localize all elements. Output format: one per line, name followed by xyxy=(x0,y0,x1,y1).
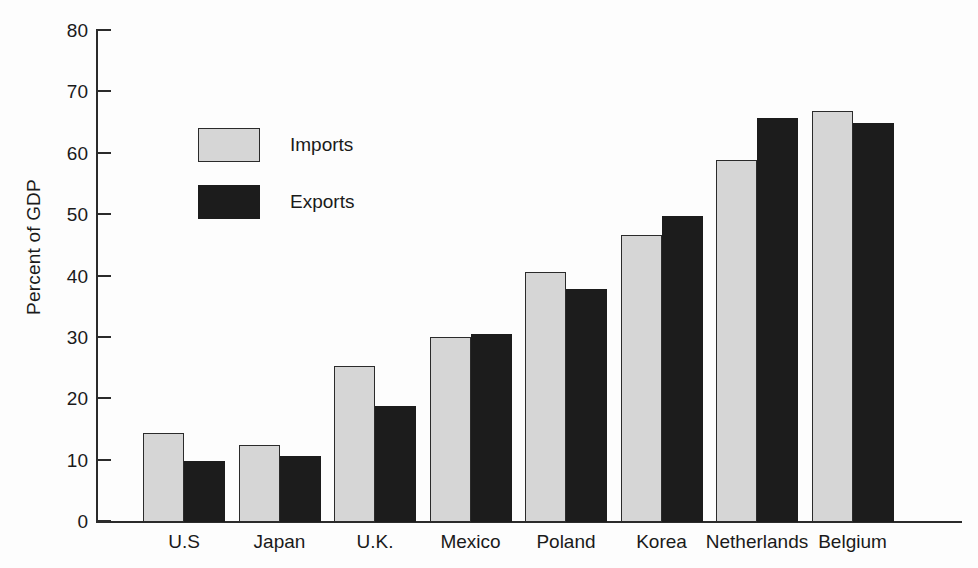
y-axis-tick-value: 40 xyxy=(54,267,88,286)
bar-group xyxy=(812,30,894,522)
y-axis-tick-value: 0 xyxy=(54,512,88,531)
bar-exports xyxy=(471,334,512,522)
bar-group xyxy=(716,30,798,522)
bar-group xyxy=(430,30,512,522)
bar-exports xyxy=(280,456,321,522)
bar-exports xyxy=(184,461,225,522)
bar-imports xyxy=(716,160,757,522)
legend-swatch-exports xyxy=(198,185,260,219)
y-axis-tick-value: 20 xyxy=(54,389,88,408)
bar-exports xyxy=(662,216,703,522)
y-axis-tick-value: 60 xyxy=(54,144,88,163)
bar-exports xyxy=(757,118,798,522)
y-axis-tick-value: 10 xyxy=(54,451,88,470)
bar-imports xyxy=(430,337,471,522)
legend-swatch-imports xyxy=(198,128,260,162)
legend-item-exports: Exports xyxy=(198,185,354,219)
bar-exports xyxy=(853,123,894,522)
bar-group xyxy=(525,30,607,522)
legend-label-imports: Imports xyxy=(290,134,353,156)
bar-group xyxy=(143,30,225,522)
plot-area xyxy=(96,30,962,522)
bar-exports xyxy=(566,289,607,522)
bar-group xyxy=(334,30,416,522)
bar-chart: Percent of GDP 01020304050607080 U.SJapa… xyxy=(0,0,978,568)
bar-imports xyxy=(812,111,853,522)
bar-imports xyxy=(525,272,566,522)
x-axis-label: Belgium xyxy=(782,531,924,553)
bar-imports xyxy=(621,235,662,522)
y-axis-tick-value: 80 xyxy=(54,21,88,40)
y-axis-tick-value: 70 xyxy=(54,82,88,101)
y-axis-title: Percent of GDP xyxy=(23,137,45,357)
bar-exports xyxy=(375,406,416,522)
legend-item-imports: Imports xyxy=(198,128,353,162)
legend-label-exports: Exports xyxy=(290,191,354,213)
bar-group xyxy=(621,30,703,522)
bar-group xyxy=(239,30,321,522)
y-axis-tick-value: 50 xyxy=(54,205,88,224)
bar-imports xyxy=(143,433,184,522)
bar-imports xyxy=(334,366,375,523)
y-axis-tick-value: 30 xyxy=(54,328,88,347)
bar-imports xyxy=(239,445,280,522)
